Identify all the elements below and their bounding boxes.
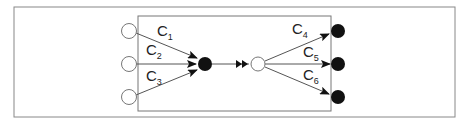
outer-frame [14, 7, 455, 117]
label-c5: C5 [303, 43, 319, 63]
output-node-5 [331, 57, 345, 71]
output-node-4 [331, 24, 345, 38]
input-node-2 [122, 57, 137, 72]
label-c2: C2 [146, 41, 162, 61]
split-node [251, 57, 265, 71]
input-node-1 [122, 24, 137, 39]
edge-c4 [265, 34, 329, 61]
label-c3: C3 [146, 67, 162, 87]
merge-split-diagram: C1 C2 C3 C4 C5 C6 [0, 0, 472, 127]
label-c1: C1 [157, 22, 173, 42]
label-c4: C4 [292, 20, 308, 40]
merge-node [198, 57, 212, 71]
label-c6: C6 [303, 66, 319, 86]
output-node-6 [331, 90, 345, 104]
double-arrowhead-icon [236, 60, 248, 68]
input-node-3 [122, 90, 137, 105]
edge-c6 [265, 67, 329, 94]
